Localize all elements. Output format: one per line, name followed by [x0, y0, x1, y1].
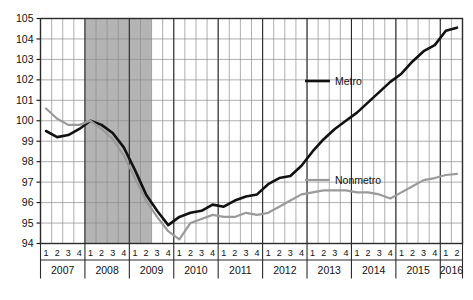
- x-axis-quarter-label: 4: [255, 248, 260, 258]
- y-axis-tick-label: 101: [16, 94, 34, 106]
- y-axis-tick-label: 95: [22, 217, 34, 229]
- x-axis-quarter-label: 1: [354, 248, 359, 258]
- x-axis-quarter-label: 1: [266, 248, 271, 258]
- y-axis-tick-label: 105: [16, 12, 34, 24]
- legend-label-metro: Metro: [335, 75, 362, 87]
- y-axis-tick-label: 102: [16, 73, 34, 85]
- x-axis-quarter-label: 4: [388, 248, 393, 258]
- x-axis-year-label: 2008: [95, 264, 119, 276]
- x-axis-quarter-label: 1: [399, 248, 404, 258]
- y-axis-tick-label: 96: [22, 196, 34, 208]
- x-axis-quarter-label: 1: [221, 248, 226, 258]
- y-axis-tick-label: 94: [22, 237, 34, 249]
- x-axis-quarter-label: 3: [110, 248, 115, 258]
- x-axis-quarter-label: 4: [77, 248, 82, 258]
- x-axis-quarter-label: 4: [343, 248, 348, 258]
- x-axis-year-label: 2009: [140, 264, 164, 276]
- x-axis-quarter-label: 2: [277, 248, 282, 258]
- x-axis-quarter-label: 4: [210, 248, 215, 258]
- y-axis-tick-label: 104: [16, 33, 34, 45]
- x-axis-year-label: 2016: [440, 264, 464, 276]
- x-axis-quarter-label: 4: [432, 248, 437, 258]
- x-axis-year-label: 2013: [318, 264, 342, 276]
- x-axis-year-label: 2015: [406, 264, 430, 276]
- x-axis-quarter-label: 1: [177, 248, 182, 258]
- x-axis-quarter-label: 1: [132, 248, 137, 258]
- x-axis-year-label: 2010: [184, 264, 208, 276]
- x-axis-year-label: 2012: [273, 264, 297, 276]
- x-axis-quarter-label: 1: [443, 248, 448, 258]
- y-axis-tick-label: 103: [16, 53, 34, 65]
- x-axis-quarter-label: 2: [366, 248, 371, 258]
- x-axis-quarter-label: 3: [66, 248, 71, 258]
- x-axis-quarter-label: 3: [199, 248, 204, 258]
- y-axis-tick-label: 99: [22, 135, 34, 147]
- x-axis-quarter-label: 3: [155, 248, 160, 258]
- x-axis-quarter-label: 2: [188, 248, 193, 258]
- x-axis-quarter-label: 4: [166, 248, 171, 258]
- x-axis-quarter-label: 4: [299, 248, 304, 258]
- x-axis-quarter-label: 2: [232, 248, 237, 258]
- x-axis-year-label: 2014: [362, 264, 386, 276]
- x-axis-quarter-label: 3: [377, 248, 382, 258]
- y-axis-tick-label: 97: [22, 176, 34, 188]
- legend-label-nonmetro: Nonmetro: [335, 174, 381, 186]
- x-axis-quarter-label: 4: [121, 248, 126, 258]
- line-chart: 949596979899100101102103104105 123412341…: [0, 0, 473, 300]
- x-axis-quarter-label: 3: [288, 248, 293, 258]
- x-axis-year-label: 2011: [229, 264, 252, 276]
- x-axis-quarter-label: 2: [99, 248, 104, 258]
- x-axis-quarter-label: 1: [310, 248, 315, 258]
- x-axis-quarter-label: 2: [55, 248, 60, 258]
- x-axis-quarter-label: 3: [332, 248, 337, 258]
- y-axis-tick-label: 98: [22, 155, 34, 167]
- x-axis-quarter-label: 2: [143, 248, 148, 258]
- x-axis-quarter-label: 2: [454, 248, 459, 258]
- x-axis-quarter-label: 1: [88, 248, 93, 258]
- x-axis-quarter-label: 2: [410, 248, 415, 258]
- chart-container: 949596979899100101102103104105 123412341…: [0, 0, 473, 300]
- x-axis-quarter-label: 1: [44, 248, 49, 258]
- x-axis-year-label: 2007: [51, 264, 75, 276]
- x-axis-quarter-label: 3: [421, 248, 426, 258]
- x-axis-quarter-label: 2: [321, 248, 326, 258]
- y-axis-tick-label: 100: [16, 114, 34, 126]
- x-axis-quarter-label: 3: [243, 248, 248, 258]
